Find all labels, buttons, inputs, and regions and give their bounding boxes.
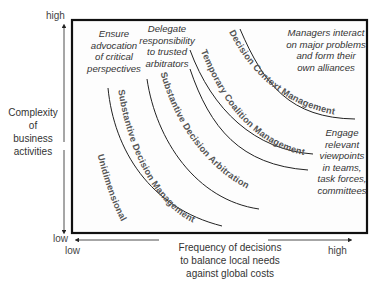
annotation-line: Delegate <box>130 23 204 35</box>
annotation-line: responsibility <box>130 35 204 47</box>
annotation-line: own alliances <box>284 62 368 74</box>
annotation-line: arbitrators <box>130 58 204 70</box>
annotation-line: viewpoints <box>314 150 370 162</box>
annotation-line: committees <box>314 185 370 197</box>
annotation-delegate-responsibility: Delegate responsibility to trusted arbit… <box>130 23 204 69</box>
annotation-line: Managers interact <box>284 27 368 39</box>
annotation-line: and form their <box>284 50 368 62</box>
annotation-engage-viewpoints: Engage relevant viewpoints in teams, tas… <box>314 127 370 196</box>
annotation-line: task forces, <box>314 173 370 185</box>
annotation-managers-interact: Managers interact on major problems and … <box>284 27 368 73</box>
annotation-line: in teams, <box>314 162 370 174</box>
annotation-line: on major problems <box>284 39 368 51</box>
annotation-line: Engage <box>314 127 370 139</box>
annotation-line: to trusted <box>130 46 204 58</box>
annotation-line: relevant <box>314 139 370 151</box>
